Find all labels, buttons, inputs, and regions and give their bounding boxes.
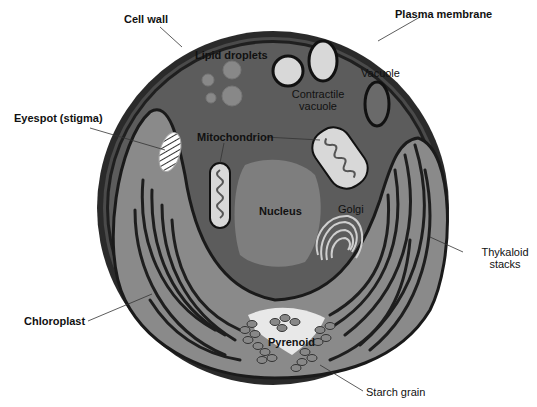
label-thylakoid-stacks: Thykaloid stacks <box>480 246 530 270</box>
label-pyrenoid: Pyrenoid <box>268 336 315 348</box>
label-contractile-line2: vacuole <box>290 100 346 112</box>
label-cell-wall: Cell wall <box>124 13 168 25</box>
label-thylakoid-line2: stacks <box>480 258 530 270</box>
label-eyespot: Eyespot (stigma) <box>14 112 103 124</box>
label-vacuole: Vacuole <box>361 67 400 79</box>
label-lipid-droplets: Lipid droplets <box>195 49 268 61</box>
contractile-vacuole <box>273 56 303 86</box>
label-mitochondrion: Mitochondrion <box>197 131 273 143</box>
label-thylakoid-line1: Thykaloid <box>480 246 530 258</box>
label-starch-grain: Starch grain <box>366 386 425 398</box>
mitochondrion <box>210 163 230 228</box>
label-contractile-line1: Contractile <box>290 88 346 100</box>
label-chloroplast: Chloroplast <box>24 315 85 327</box>
label-golgi: Golgi <box>338 203 364 215</box>
label-nucleus: Nucleus <box>259 205 302 217</box>
label-plasma-membrane: Plasma membrane <box>395 8 492 20</box>
vacuole <box>365 82 389 126</box>
contractile-vacuole <box>309 41 337 81</box>
label-contractile-vacuole: Contractile vacuole <box>290 88 346 112</box>
